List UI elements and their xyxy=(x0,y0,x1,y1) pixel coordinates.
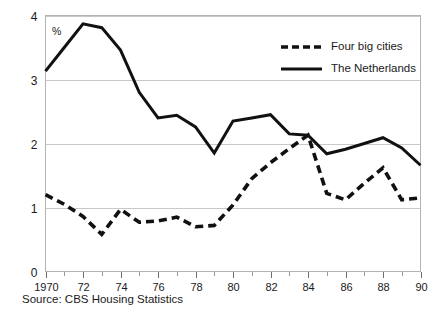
x-tick-label: 86 xyxy=(340,281,352,293)
y-tick-label: 4 xyxy=(31,10,38,24)
x-tick-label: 74 xyxy=(115,281,127,293)
x-tick-label: 90 xyxy=(415,281,427,293)
y-tick-label: 1 xyxy=(31,202,38,216)
x-tick-label: 76 xyxy=(152,281,164,293)
x-tick-label: 1970 xyxy=(34,281,58,293)
x-tick-label: 72 xyxy=(77,281,89,293)
x-tick-label: 80 xyxy=(227,281,239,293)
x-tick-label: 78 xyxy=(190,281,202,293)
y-axis-unit-label: % xyxy=(52,25,61,37)
x-tick-label: 84 xyxy=(302,281,314,293)
source-note: Source: CBS Housing Statistics xyxy=(22,293,183,305)
legend-label: Four big cities xyxy=(331,40,403,52)
x-tick-label: 82 xyxy=(265,281,277,293)
y-tick-label: 3 xyxy=(31,74,38,88)
line-chart-figure: 01234 197072747678808284868890 % Four bi… xyxy=(0,0,438,323)
y-tick-label: 2 xyxy=(31,138,38,152)
x-tick-label: 88 xyxy=(377,281,389,293)
y-tick-label: 0 xyxy=(31,266,38,280)
legend-label: The Netherlands xyxy=(331,62,416,74)
